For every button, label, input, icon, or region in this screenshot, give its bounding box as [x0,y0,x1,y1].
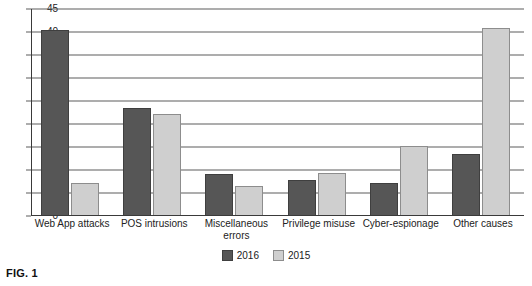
bar [235,186,263,216]
chart-plot-area: 051015202530354045 [31,9,524,216]
x-axis-category-label: Other causes [442,218,524,230]
legend-label: 2016 [237,251,259,261]
y-axis-line [31,9,32,216]
bars-layer [31,9,524,216]
legend-item: 2016 [222,250,259,261]
figure-caption: FIG. 1 [6,267,38,279]
x-axis-category-label: Miscellaneous errors [195,218,277,242]
x-axis-category-label: Privilege misuse [278,218,360,230]
x-axis-labels: Web App attacksPOS intrusionsMiscellaneo… [31,218,524,248]
bar [370,183,398,216]
bar [123,108,151,216]
bar [205,174,233,216]
legend-swatch [273,250,284,261]
bar-group [278,9,360,216]
legend-swatch [222,250,233,261]
figure-container: 051015202530354045 Web App attacksPOS in… [0,0,532,286]
x-axis-category-label: POS intrusions [113,218,195,230]
legend-label: 2015 [288,251,310,261]
chart-legend: 20162015 [0,250,532,261]
bar [452,154,480,216]
bar-group [113,9,195,216]
bar [41,30,69,216]
legend-item: 2015 [273,250,310,261]
x-axis-line [31,215,524,216]
bar [400,146,428,216]
bar [318,173,346,216]
bar [482,28,510,216]
bar [153,114,181,216]
bar-group [195,9,277,216]
bar-group [31,9,113,216]
x-axis-category-label: Web App attacks [31,218,113,230]
bar [71,183,99,216]
bar-group [442,9,524,216]
x-axis-category-label: Cyber-espionage [360,218,442,230]
bar-group [360,9,442,216]
bar [288,180,316,216]
